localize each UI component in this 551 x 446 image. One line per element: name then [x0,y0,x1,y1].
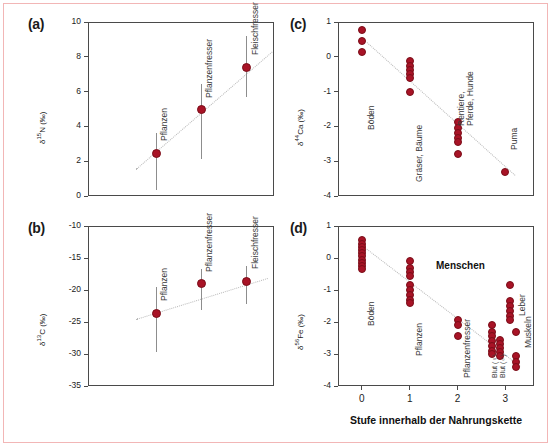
x-tick-label: 1 [398,393,422,404]
data-point [358,48,366,56]
data-point [454,321,462,329]
panel-a: (a) δ15N (‰) 1086420PflanzenPflanzenfres… [28,14,276,210]
error-bar [201,269,202,310]
y-tick-label: 1 [304,220,331,230]
annotation-label: Menschen [436,260,485,271]
y-tick-mark [334,322,338,323]
group-label: Rentiere, [456,92,466,127]
data-point-label: Pflanzen [159,108,169,141]
x-tick-label: 3 [493,393,517,404]
error-bar [156,133,157,190]
y-tick-mark [334,196,338,197]
data-point [406,88,414,96]
y-tick-mark [84,22,88,23]
y-tick-label: -2 [304,316,331,326]
x-tick-mark [409,386,410,390]
group-label: Muskeln [523,316,533,348]
data-point-label: Pflanzenfresser [204,39,214,98]
group-label: Böden [366,301,376,326]
y-tick-mark [84,354,88,355]
x-tick-mark [457,386,458,390]
isotope-number: 15 [36,133,42,140]
y-tick-label: -1 [304,86,331,96]
group-label: Gräser, Bäume [414,125,424,182]
data-point [152,309,161,318]
group-label: Pflanzenfresser [462,319,472,378]
error-bar [156,287,157,352]
data-point [454,138,462,146]
data-point-label: Fleischfresser [250,2,260,55]
y-tick-mark [334,290,338,291]
y-tick-mark [84,126,88,127]
data-point-label: Fleischfresser [250,216,260,269]
data-point [501,168,509,176]
y-tick-mark [84,290,88,291]
y-tick-mark [84,91,88,92]
data-point [512,363,520,371]
data-point [242,63,251,72]
y-tick-mark [334,258,338,259]
panel-a-yaxis-title: δ15N (‰) [36,112,47,144]
element-unit: C (‰) [38,314,47,335]
data-point [358,37,366,45]
delta-symbol: δ [38,342,47,346]
y-tick-label: -4 [304,190,331,200]
y-tick-mark [334,56,338,57]
data-point [242,277,251,286]
y-tick-label: -4 [304,380,331,390]
y-tick-mark [84,386,88,387]
group-label: Pflanzen [414,323,424,356]
data-point [512,328,520,336]
y-tick-mark [334,91,338,92]
panel-c: (c) δ44Ca (‰) 10-1-2-3-4BödenGräser, Bäu… [290,14,542,210]
group-label: Puma [509,128,519,150]
y-tick-mark [84,226,88,227]
y-tick-label: -25 [54,316,81,326]
error-bar [201,84,202,160]
data-point [152,149,161,158]
panel-a-label: (a) [28,16,44,32]
panel-d-xaxis-title: Stufe innerhalb der Nahrungskette [338,414,534,426]
data-point [197,279,206,288]
delta-symbol: δ [38,140,47,144]
isotope-number: 13 [36,335,42,342]
isotope-number: 44 [294,135,300,142]
y-tick-label: 8 [54,51,81,61]
y-tick-label: -3 [304,348,331,358]
y-tick-label: -1 [304,284,331,294]
y-tick-mark [84,56,88,57]
data-point [454,150,462,158]
y-tick-mark [334,126,338,127]
x-tick-label: 0 [350,393,374,404]
y-tick-mark [334,226,338,227]
y-tick-label: 2 [54,155,81,165]
data-point-label: Pflanzen [159,268,169,301]
y-tick-mark [84,196,88,197]
isotope-number: 56 [294,339,300,346]
y-tick-label: 1 [304,16,331,26]
group-label: Leber [517,294,527,316]
delta-symbol: δ [296,142,305,146]
panel-b: (b) δ13C (‰) -10-15-20-25-30-35PflanzenP… [28,216,276,412]
x-tick-mark [361,386,362,390]
y-tick-mark [334,386,338,387]
y-tick-label: 0 [54,190,81,200]
y-tick-label: -35 [54,380,81,390]
y-tick-mark [334,22,338,23]
data-point [358,26,366,34]
data-point-label: Pflanzenfresser [204,213,214,272]
panel-b-label: (b) [28,220,45,236]
x-tick-label: 2 [446,393,470,404]
data-point [454,332,462,340]
y-tick-mark [84,322,88,323]
y-tick-label: -20 [54,284,81,294]
y-tick-label: 4 [54,120,81,130]
element-unit: N (‰) [38,112,47,133]
y-tick-mark [334,354,338,355]
y-tick-mark [334,161,338,162]
y-tick-label: 0 [304,51,331,61]
group-label: Blut (♂) [499,354,506,378]
figure-root: (a) δ15N (‰) 1086420PflanzenPflanzenfres… [0,0,551,446]
y-tick-label: -2 [304,120,331,130]
y-tick-label: -15 [54,252,81,262]
